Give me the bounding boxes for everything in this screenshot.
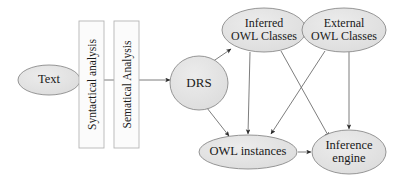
node-shape-inference-engine[interactable] [312, 130, 386, 174]
edge-inferred-owl-classes-to-inference-engine [281, 51, 329, 137]
node-label-syntactical-analysis: Syntactical analysis [79, 21, 104, 148]
node-shape-external-owl-classes[interactable] [302, 8, 386, 52]
edge-inferred-owl-classes-to-owl-instances [248, 52, 250, 134]
node-shape-inferred-owl-classes[interactable] [222, 8, 306, 52]
diagram-graphics [0, 0, 397, 184]
node-shape-layer [18, 8, 386, 174]
edge-external-owl-classes-to-owl-instances [271, 51, 325, 134]
node-shape-drs[interactable] [170, 56, 228, 110]
node-shape-text[interactable] [18, 65, 80, 95]
node-label-sematical-analysis: Sematical Analysis [114, 21, 139, 148]
edge-drs-to-owl-instances [207, 108, 229, 136]
node-shape-owl-instances[interactable] [199, 135, 297, 169]
diagram-canvas: Text Syntactical analysis Sematical Anal… [0, 0, 397, 184]
